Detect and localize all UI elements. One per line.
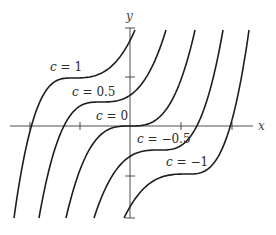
curve-c-1 bbox=[14, 30, 135, 218]
curve-c-neg0.5 bbox=[94, 30, 223, 218]
curve-c-neg1 bbox=[124, 30, 249, 218]
label-c-0.5: c = 0.5 bbox=[72, 85, 116, 99]
y-axis-label: y bbox=[125, 9, 133, 23]
label-c-neg0.5: c = −0.5 bbox=[137, 132, 191, 146]
solution-curves bbox=[14, 30, 249, 218]
chart-plot: x y c = 1 c = 0.5 c = 0 c = −0.5 c = −1 bbox=[0, 0, 276, 235]
label-c-0: c = 0 bbox=[96, 109, 128, 123]
label-c-neg1: c = −1 bbox=[166, 155, 208, 169]
curve-c-0 bbox=[66, 30, 195, 218]
label-c-1: c = 1 bbox=[50, 60, 82, 74]
x-axis-label: x bbox=[258, 119, 265, 133]
